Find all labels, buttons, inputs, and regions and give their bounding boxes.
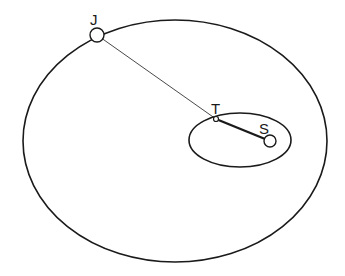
- outer-orbit: [23, 20, 327, 262]
- orbit-diagram: J T S: [0, 0, 345, 276]
- sight-line-j-t: [97, 35, 216, 119]
- node-j: [90, 28, 104, 42]
- label-j: J: [90, 11, 98, 28]
- node-t: [214, 117, 219, 122]
- label-s: S: [259, 120, 269, 137]
- label-t: T: [211, 100, 220, 117]
